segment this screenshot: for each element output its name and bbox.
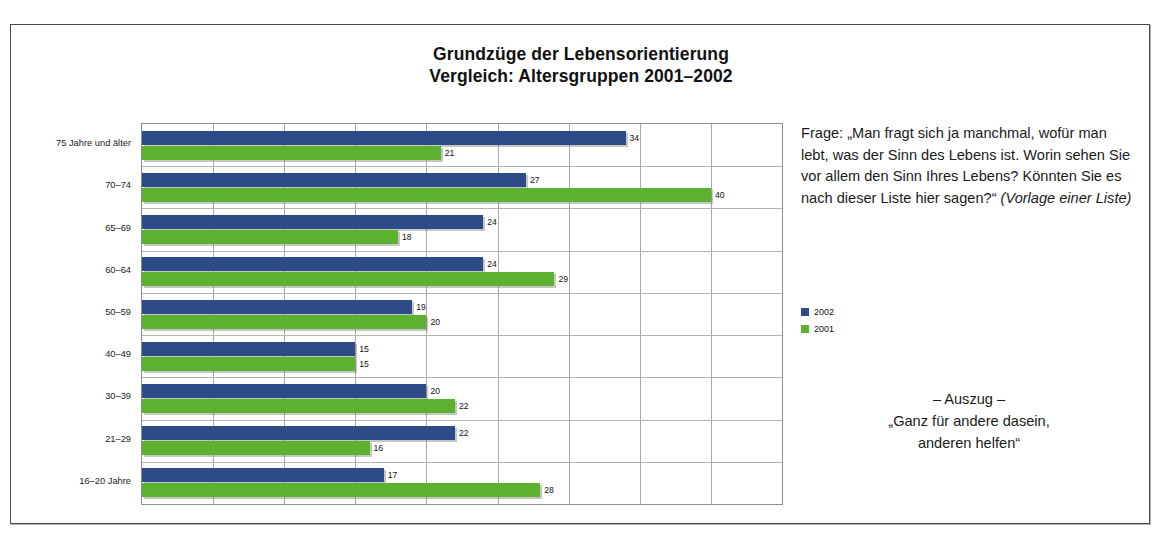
bar-value-label: 18: [402, 232, 412, 242]
bar-value-label: 16: [374, 443, 384, 453]
bar-value-label: 28: [544, 485, 554, 495]
excerpt-line-2: anderen helfen“: [801, 432, 1137, 454]
bar-value-label: 20: [430, 386, 440, 396]
bar-value-label: 40: [715, 190, 725, 200]
excerpt-line-1: „Ganz für andere dasein,: [801, 410, 1137, 432]
bar-2001-70-74[interactable]: [142, 188, 711, 202]
bar-2002-16-20-Jahre[interactable]: [142, 468, 384, 482]
chart-plot-wrapper: 75 Jahre und älter70–7465–6960–6450–5940…: [23, 105, 793, 505]
bar-value-label: 21: [445, 148, 455, 158]
gridline-horizontal: [142, 335, 782, 336]
bar-2002-70-74[interactable]: [142, 173, 526, 187]
gridline-horizontal: [142, 462, 782, 463]
legend-label: 2001: [814, 325, 834, 334]
gridline-horizontal: [142, 420, 782, 421]
excerpt-heading: – Auszug –: [801, 388, 1137, 410]
bar-value-label: 22: [459, 401, 469, 411]
category-label: 75 Jahre und älter: [23, 138, 131, 149]
excerpt-block: – Auszug – „Ganz für andere dasein, ande…: [801, 388, 1137, 454]
bar-2001-60-64[interactable]: [142, 272, 554, 286]
category-label: 65–69: [23, 223, 131, 234]
bar-2001-40-49[interactable]: [142, 357, 355, 371]
title-line-2: Vergleich: Altersgruppen 2001–2002: [11, 65, 1151, 87]
figure-frame: Grundzüge der Lebensorientierung Verglei…: [10, 24, 1150, 524]
bar-2002-65-69[interactable]: [142, 215, 483, 229]
gridline-vertical: [569, 124, 570, 504]
category-label: 60–64: [23, 265, 131, 276]
legend-item-2002[interactable]: 2002: [801, 305, 834, 319]
title-line-1: Grundzüge der Lebensorientierung: [11, 43, 1151, 65]
legend-label: 2002: [814, 308, 834, 317]
bar-2001-75-Jahre-und-älter[interactable]: [142, 146, 441, 160]
legend-item-2001[interactable]: 2001: [801, 322, 834, 336]
bar-2001-50-59[interactable]: [142, 315, 426, 329]
question-note: (Vorlage einer Liste): [1001, 190, 1132, 206]
category-label: 50–59: [23, 307, 131, 318]
gridline-vertical: [711, 124, 712, 504]
bar-value-label: 15: [359, 359, 369, 369]
category-label: 30–39: [23, 391, 131, 402]
page-title: Grundzüge der Lebensorientierung Verglei…: [11, 43, 1151, 87]
gridline-vertical: [640, 124, 641, 504]
bar-2001-65-69[interactable]: [142, 230, 398, 244]
bar-2001-30-39[interactable]: [142, 399, 455, 413]
question-text: Frage: „Man fragt sich ja manchmal, wofü…: [801, 123, 1137, 209]
category-label: 40–49: [23, 349, 131, 360]
bar-value-label: 24: [487, 217, 497, 227]
gridline-horizontal: [142, 293, 782, 294]
bar-2002-30-39[interactable]: [142, 384, 426, 398]
category-label: 70–74: [23, 180, 131, 191]
gridline-horizontal: [142, 166, 782, 167]
gridline-horizontal: [142, 377, 782, 378]
gridline-horizontal: [142, 251, 782, 252]
bar-value-label: 20: [430, 317, 440, 327]
bar-value-label: 19: [416, 302, 426, 312]
category-label: 21–29: [23, 434, 131, 445]
bar-2001-21-29[interactable]: [142, 441, 370, 455]
legend-swatch-icon: [801, 325, 809, 333]
gridline-horizontal: [142, 208, 782, 209]
bar-2002-50-59[interactable]: [142, 300, 412, 314]
question-prefix: Frage:: [801, 125, 847, 141]
bar-value-label: 22: [459, 428, 469, 438]
bar-2002-21-29[interactable]: [142, 426, 455, 440]
category-axis: 75 Jahre und älter70–7465–6960–6450–5940…: [23, 123, 131, 505]
side-panel: Frage: „Man fragt sich ja manchmal, wofü…: [801, 105, 1141, 505]
bar-2002-60-64[interactable]: [142, 257, 483, 271]
bar-value-label: 24: [487, 259, 497, 269]
bar-value-label: 27: [530, 175, 540, 185]
bar-2002-40-49[interactable]: [142, 342, 355, 356]
plot-area: 342127402418242919201515202222161728: [141, 123, 783, 505]
chart-legend: 20022001: [801, 305, 834, 339]
legend-swatch-icon: [801, 308, 809, 316]
category-label: 16–20 Jahre: [23, 476, 131, 487]
bar-value-label: 29: [558, 274, 568, 284]
bar-value-label: 34: [630, 133, 640, 143]
bar-value-label: 17: [388, 470, 398, 480]
bar-value-label: 15: [359, 344, 369, 354]
bar-2001-16-20-Jahre[interactable]: [142, 483, 540, 497]
bar-2002-75-Jahre-und-älter[interactable]: [142, 131, 626, 145]
